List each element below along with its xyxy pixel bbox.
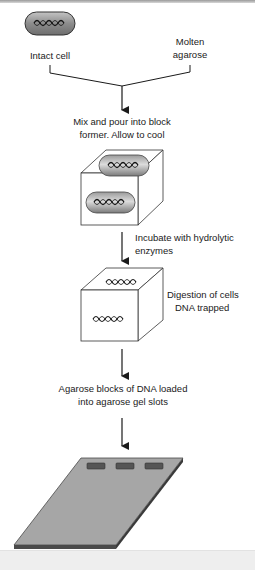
agarose-block-with-cells (81, 150, 163, 225)
gel-slot (87, 463, 105, 469)
step-load-line2: into agarose gel slots (78, 396, 168, 407)
intact-cell-label: Intact cell (30, 50, 70, 61)
embedded-cell-icon (99, 155, 149, 176)
step-incubate-line1: Incubate with hydrolytic (135, 232, 234, 243)
intact-cell-icon (25, 12, 75, 35)
merge-connector (50, 65, 190, 86)
step-mix-line2: former. Allow to cool (79, 129, 164, 140)
gel-slot (145, 463, 163, 469)
molten-agarose-label-line2: agarose (173, 49, 207, 60)
molten-agarose-label-line1: Molten (176, 36, 205, 47)
gel-slot (116, 463, 134, 469)
step-incubate-line2: enzymes (135, 245, 173, 256)
step-load-line1: Agarose blocks of DNA loaded (59, 383, 188, 394)
bottom-strip (0, 550, 255, 570)
embedded-cell-icon (86, 192, 135, 213)
agarose-block-with-dna (81, 268, 163, 341)
gel-slots (87, 463, 163, 469)
step-digest-line2: DNA trapped (175, 302, 229, 313)
agarose-gel-slab (14, 458, 183, 549)
step-digest-line1: Digestion of cells (167, 289, 239, 300)
step-mix-line1: Mix and pour into block (73, 116, 171, 127)
